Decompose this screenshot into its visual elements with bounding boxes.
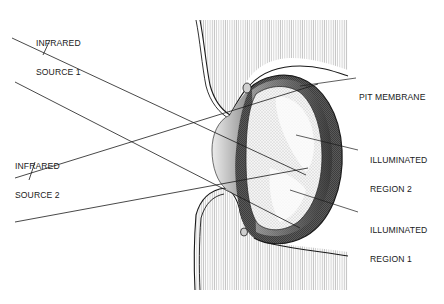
label-line: ILLUMINATED	[370, 156, 427, 166]
label-line: REGION 2	[370, 185, 427, 195]
label-line: SOURCE 2	[15, 191, 60, 201]
label-line: INFRARED	[36, 39, 81, 49]
pit-organ-diagram: INFRARED SOURCE 1 INFRARED SOURCE 2 PIT …	[0, 0, 444, 304]
label-illuminated-region-2: ILLUMINATED REGION 2	[370, 137, 427, 213]
label-illuminated-region-1: ILLUMINATED REGION 1	[370, 207, 427, 283]
label-line: ILLUMINATED	[370, 226, 427, 236]
label-pit-membrane: PIT MEMBRANE	[359, 74, 425, 122]
label-line: SOURCE 1	[36, 68, 81, 78]
label-infrared-source-2: INFRARED SOURCE 2	[15, 143, 60, 219]
label-line: PIT MEMBRANE	[359, 93, 425, 103]
label-line: REGION 1	[370, 255, 427, 265]
label-line: INFRARED	[15, 162, 60, 172]
label-infrared-source-1: INFRARED SOURCE 1	[36, 20, 81, 96]
